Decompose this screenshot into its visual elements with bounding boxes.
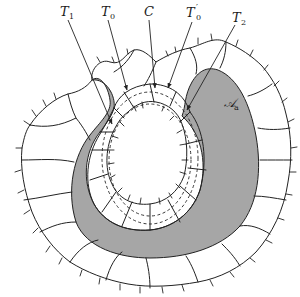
central-core-boundary bbox=[107, 101, 187, 204]
svg-text:a: a bbox=[234, 103, 239, 112]
svg-text:1: 1 bbox=[69, 12, 74, 21]
label-T0: T 0 bbox=[101, 4, 115, 21]
tissue-cross-section-diagram: T 1 T 0 C T ′ 0 T 2 𝒜 a bbox=[0, 0, 300, 297]
arrow-T0 bbox=[108, 20, 127, 90]
svg-text:T: T bbox=[186, 5, 196, 20]
svg-text:C: C bbox=[144, 4, 154, 19]
svg-text:0: 0 bbox=[110, 12, 115, 21]
label-T0prime: T ′ 0 bbox=[186, 3, 201, 22]
svg-text:2: 2 bbox=[241, 18, 246, 27]
svg-text:0: 0 bbox=[196, 13, 201, 22]
label-T2: T 2 bbox=[232, 10, 246, 27]
label-C: C bbox=[144, 4, 154, 19]
dashed-boundary-inner bbox=[109, 104, 191, 216]
label-T1: T 1 bbox=[60, 4, 74, 21]
arrow-T1 bbox=[68, 20, 112, 124]
arrow-T0prime bbox=[168, 22, 192, 88]
arrow-C bbox=[149, 20, 155, 88]
svg-text:′: ′ bbox=[196, 3, 198, 13]
